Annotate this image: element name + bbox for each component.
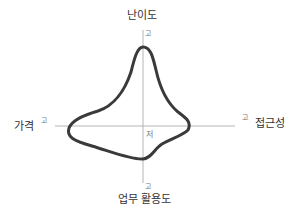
center-label-low: 저 bbox=[146, 131, 153, 139]
axis-title-work-utilization: 업무 활용도 bbox=[118, 194, 172, 205]
axis-tick-price-high: 고 bbox=[41, 118, 47, 125]
axis-title-difficulty: 난이도 bbox=[127, 10, 157, 21]
axis-tick-difficulty-high: 고 bbox=[145, 31, 151, 38]
axis-title-accessibility: 접근성 bbox=[255, 118, 285, 129]
axis-tick-utilization-high: 고 bbox=[145, 184, 151, 191]
axis-title-price: 가격 bbox=[14, 121, 34, 132]
axis-tick-accessibility-high: 고 bbox=[242, 115, 248, 122]
radar-diagram: 난이도 고 가격 고 접근성 고 고 업무 활용도 저 bbox=[0, 0, 296, 219]
profile-shape bbox=[68, 47, 189, 159]
